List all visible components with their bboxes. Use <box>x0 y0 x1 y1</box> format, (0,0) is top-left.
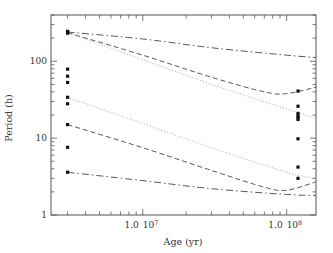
data-point <box>66 146 69 149</box>
y-tick-labels: 110100 <box>30 56 47 220</box>
y-tick-label: 1 <box>41 210 47 220</box>
x-tick-label: 1.0 <box>124 220 139 230</box>
data-points <box>66 30 300 180</box>
y-axis-label: Period (h) <box>3 94 14 142</box>
data-point <box>66 96 69 99</box>
chart: 110100 1.01071.0108 Age (yr) Period (h) <box>0 0 333 253</box>
curve-upper-dotted <box>68 33 316 119</box>
x-tick-label-base: 108 <box>287 219 303 230</box>
x-tick-label: 1.0 <box>268 220 283 230</box>
model-curves <box>68 32 316 195</box>
data-point <box>66 171 69 174</box>
data-point <box>296 105 299 108</box>
curve-lower-dashdot <box>68 172 316 195</box>
x-tick-label-base: 107 <box>143 219 159 230</box>
data-point <box>296 118 299 121</box>
data-point <box>296 165 299 168</box>
curve-lower-dashed <box>68 125 316 191</box>
curve-upper-dashdot <box>68 32 316 57</box>
plot-frame <box>51 15 316 215</box>
data-point <box>66 32 69 35</box>
x-axis-label: Age (yr) <box>163 236 203 247</box>
curve-upper-dashed <box>68 33 316 94</box>
data-point <box>296 137 299 140</box>
x-tick-labels: 1.01071.0108 <box>124 219 302 230</box>
data-point <box>66 68 69 71</box>
data-point <box>66 81 69 84</box>
curve-lower-dotted <box>68 97 316 178</box>
y-tick-label: 100 <box>30 56 47 66</box>
data-point <box>66 102 69 105</box>
data-point <box>296 177 299 180</box>
y-tick-label: 10 <box>36 133 48 143</box>
axis-ticks <box>51 15 316 215</box>
data-point <box>66 123 69 126</box>
data-point <box>296 89 299 92</box>
data-point <box>66 75 69 78</box>
